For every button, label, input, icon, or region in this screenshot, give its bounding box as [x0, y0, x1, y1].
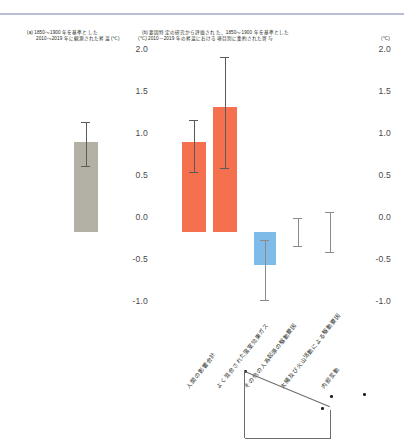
bracket-left-vertical-line — [244, 371, 245, 438]
bracket-right-vertical-line — [330, 410, 331, 438]
errorbar-cap-bottom-total-human-influence — [189, 172, 198, 173]
errorbar-cap-top-total-human-influence — [189, 120, 198, 121]
errorbar-cap-top-well-mixed-greenhouse-gases — [220, 57, 229, 58]
connector-dot-other-human-drivers — [330, 395, 333, 398]
figure-root: (a) 1850～1900 年を基準とした 2010～2019 年に観測された昇… — [0, 0, 404, 445]
errorbar-cap-bottom-well-mixed-greenhouse-gases — [220, 168, 229, 169]
errorbar-solar-volcanic-drivers — [298, 218, 299, 246]
errorbar-well-mixed-greenhouse-gases — [225, 57, 226, 168]
errorbar-total-human-influence — [194, 120, 195, 172]
bracket-bottom-line — [245, 438, 331, 439]
errorbar-other-human-drivers — [265, 240, 266, 300]
errorbar-observed-warming — [86, 122, 87, 166]
errorbar-cap-bottom-solar-volcanic-drivers — [293, 246, 302, 247]
errorbar-cap-bottom-internal-variability — [325, 252, 334, 253]
errorbar-cap-bottom-observed-warming — [81, 166, 90, 167]
errorbar-cap-top-solar-volcanic-drivers — [293, 218, 302, 219]
errorbar-cap-top-other-human-drivers — [260, 240, 269, 241]
connector-dot-internal-variability — [363, 393, 366, 396]
errorbar-cap-top-internal-variability — [325, 212, 334, 213]
errorbar-internal-variability — [330, 212, 331, 252]
errorbar-cap-top-observed-warming — [81, 122, 90, 123]
plot-area — [0, 0, 404, 445]
errorbar-cap-bottom-other-human-drivers — [260, 300, 269, 301]
connector-dot-solar-volcanic-drivers — [321, 407, 324, 410]
